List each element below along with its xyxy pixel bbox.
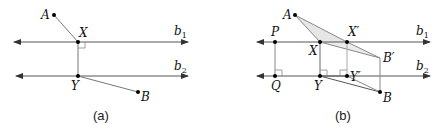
panel-b: A P X X′ B′ Q Y Y′ B b1 b2 (b) bbox=[257, 8, 430, 123]
point-Q bbox=[273, 74, 277, 78]
label-Y: Y bbox=[314, 79, 323, 93]
label-B: B bbox=[382, 91, 392, 105]
panel-a: A X Y B b1 b2 (a) bbox=[14, 8, 188, 123]
caption-a: (a) bbox=[93, 108, 109, 123]
point-X bbox=[76, 40, 80, 44]
point-X bbox=[318, 40, 322, 44]
segment-AX bbox=[54, 15, 78, 42]
label-b1: b1 bbox=[174, 24, 187, 40]
label-b2: b2 bbox=[174, 59, 187, 75]
label-X: X bbox=[78, 26, 88, 40]
label-Yp: Y′ bbox=[350, 70, 361, 84]
label-Bp: B′ bbox=[382, 51, 395, 65]
label-Q: Q bbox=[271, 79, 281, 93]
point-P bbox=[273, 40, 277, 44]
point-Y bbox=[318, 74, 322, 78]
label-A: A bbox=[282, 8, 292, 22]
label-X: X bbox=[308, 44, 318, 58]
label-B: B bbox=[140, 90, 150, 104]
point-Xp bbox=[345, 40, 349, 44]
label-b1: b1 bbox=[416, 24, 429, 40]
point-A bbox=[52, 13, 56, 17]
label-A: A bbox=[40, 8, 50, 22]
label-P: P bbox=[270, 25, 280, 39]
segment-YB bbox=[78, 76, 138, 92]
point-Yp bbox=[345, 74, 349, 78]
label-Y: Y bbox=[71, 79, 80, 93]
diagram-canvas: A X Y B b1 b2 (a) A bbox=[0, 0, 441, 127]
point-B bbox=[136, 90, 140, 94]
point-B bbox=[378, 90, 382, 94]
label-Xp: X′ bbox=[347, 25, 360, 39]
label-b2: b2 bbox=[416, 59, 429, 75]
point-A bbox=[293, 13, 297, 17]
caption-b: (b) bbox=[335, 108, 351, 123]
point-Y bbox=[76, 74, 80, 78]
